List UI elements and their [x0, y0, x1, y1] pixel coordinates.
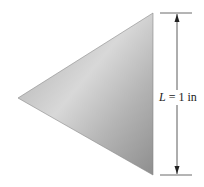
- triangle-plate: [18, 13, 153, 175]
- dimension-variable: L: [159, 90, 166, 104]
- arrow-down-icon: [175, 166, 180, 174]
- arrow-up-icon: [175, 14, 180, 22]
- dimension-value: = 1 in: [166, 90, 197, 104]
- dimension-label: L = 1 in: [158, 90, 198, 105]
